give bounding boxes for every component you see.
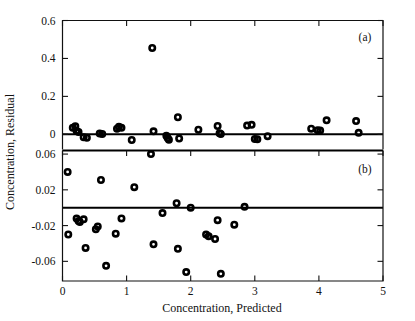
data-point-marker <box>160 210 165 215</box>
data-point-marker <box>151 242 156 247</box>
panel-b-frame <box>63 151 384 282</box>
panel-a-y-tick-label: 0 <box>50 128 56 140</box>
data-point-marker <box>66 232 71 237</box>
data-point-marker <box>265 134 270 139</box>
x-tick-label: 2 <box>188 285 194 297</box>
x-axis-title: Concentration, Predicted <box>162 301 281 315</box>
data-point-marker <box>98 177 103 182</box>
axes-decorations: 01234500.20.40.60.060.02-0.02-0.06 <box>32 15 387 298</box>
data-point-marker <box>309 126 314 131</box>
data-point-marker <box>81 217 86 222</box>
data-point-marker <box>113 231 118 236</box>
data-point-marker <box>176 136 181 141</box>
data-point-marker <box>215 218 220 223</box>
panel-a-y-tick-label: 0.4 <box>41 52 56 64</box>
data-point-marker <box>148 151 153 156</box>
data-point-marker <box>212 236 217 241</box>
data-point-marker <box>175 115 180 120</box>
data-point-marker <box>150 45 155 50</box>
data-point-marker <box>249 122 254 127</box>
panel-b-y-tick-label: 0.06 <box>35 148 55 160</box>
data-point-marker <box>132 184 137 189</box>
data-point-marker <box>151 129 156 134</box>
data-point-marker <box>196 127 201 132</box>
y-axis-title: Concentration, Residual <box>3 93 17 210</box>
residual-plot-figure: (a) (b) 01234500.20.40.60.060.02-0.02-0.… <box>0 0 415 321</box>
data-point-marker <box>215 123 220 128</box>
data-point-marker <box>129 137 134 142</box>
panel-b-y-tick-label: -0.02 <box>32 220 56 232</box>
data-point-marker <box>218 271 223 276</box>
panel-b-y-tick-label: 0.02 <box>35 184 55 196</box>
x-tick-label: 5 <box>380 285 386 297</box>
panel-a-frame <box>63 21 384 150</box>
data-point-marker <box>356 130 361 135</box>
data-point-marker <box>174 201 179 206</box>
panel-b-tag: (b) <box>358 163 372 176</box>
data-point-marker <box>184 269 189 274</box>
panel-a-y-tick-label: 0.2 <box>41 90 56 102</box>
data-point-marker <box>119 216 124 221</box>
data-point-marker <box>232 222 237 227</box>
x-tick-label: 4 <box>316 285 322 297</box>
panel-a-tag: (a) <box>359 31 372 44</box>
panel-b: (b) <box>63 151 384 276</box>
data-point-marker <box>324 118 329 123</box>
x-tick-label: 1 <box>124 285 130 297</box>
panel-a: (a) <box>63 31 384 143</box>
data-point-marker <box>175 246 180 251</box>
panel-b-y-tick-label: -0.06 <box>32 255 56 267</box>
x-tick-label: 3 <box>252 285 258 297</box>
x-tick-label: 0 <box>60 285 66 297</box>
data-point-marker <box>103 263 108 268</box>
data-point-marker <box>83 245 88 250</box>
panel-a-y-tick-label: 0.6 <box>41 15 56 27</box>
scatter-plot-svg: (a) (b) 01234500.20.40.60.060.02-0.02-0.… <box>0 0 415 321</box>
data-point-marker <box>353 118 358 123</box>
data-point-marker <box>65 169 70 174</box>
